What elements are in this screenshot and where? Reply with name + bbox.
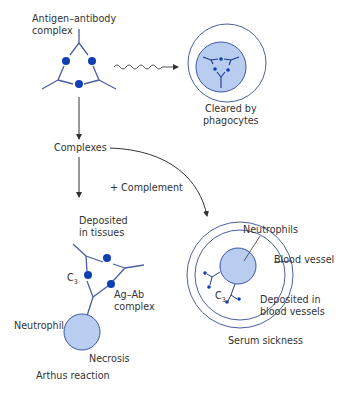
label-line: Deposited in (260, 294, 325, 306)
label-deposited-in-tissues: Deposited in tissues (79, 215, 128, 239)
label-line: phagocytes (203, 115, 259, 127)
label-serum-sickness: Serum sickness (228, 335, 303, 347)
label-ag-ab-complex: Ag–Ab complex (114, 289, 155, 313)
label-complement: + Complement (110, 182, 183, 194)
c3-letter: C (215, 290, 222, 301)
label-arthus-reaction: Arthus reaction (36, 370, 110, 382)
antigen-dots (62, 57, 96, 88)
label-cleared-by-phagocytes: Cleared by phagocytes (203, 103, 259, 127)
label-c3-vessel: C3 (215, 290, 226, 306)
label-antigen-antibody: Antigen–antibody complex (32, 13, 116, 37)
label-line: Cleared by (203, 103, 259, 115)
diagram-canvas: Antigen–antibody complex Cleared by phag… (0, 0, 341, 394)
label-line: Deposited (79, 215, 128, 227)
label-complexes: Complexes (54, 142, 107, 154)
label-neutrophil: Neutrophil (14, 320, 64, 332)
c3-subscript: 3 (222, 296, 226, 304)
label-line: Antigen–antibody (32, 13, 116, 25)
label-line: Ag–Ab (114, 289, 155, 301)
label-line: blood vessels (260, 306, 325, 318)
label-c3-arthus: C3 (67, 272, 78, 288)
label-blood-vessel: Blood vessel (274, 254, 334, 266)
label-neutrophils: Neutrophils (243, 224, 298, 236)
label-line: complex (114, 301, 155, 313)
label-necrosis: Necrosis (89, 353, 130, 365)
label-line: complex (32, 25, 116, 37)
c3-letter: C (67, 272, 74, 283)
c3-subscript: 3 (74, 278, 78, 286)
phagocyte-icon (188, 24, 266, 102)
complement-dots (84, 254, 115, 288)
wavy-arrow-icon (114, 65, 178, 69)
label-deposited-in-blood-vessels: Deposited in blood vessels (260, 294, 325, 318)
label-line: in tissues (79, 227, 128, 239)
neutrophil-cell-icon (64, 314, 100, 350)
